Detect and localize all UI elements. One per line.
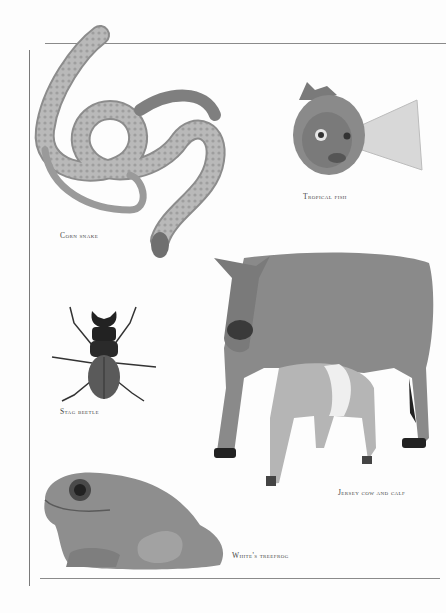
corn-snake-photo (30, 30, 230, 262)
tropical-fish-photo (287, 80, 427, 185)
caption-whites-treefrog: White's treefrog (232, 551, 289, 560)
jersey-cow-and-calf-photo (204, 248, 440, 493)
caption-tropical-fish: Tropical fish (303, 192, 347, 201)
bottom-rule (40, 578, 440, 579)
caption-stag-beetle: Stag beetle (60, 407, 99, 416)
whites-treefrog-photo (40, 465, 230, 573)
book-page: Corn snake Tropical fish (0, 0, 446, 613)
stag-beetle-photo (52, 305, 157, 405)
caption-corn-snake: Corn snake (60, 231, 98, 240)
caption-jersey-cow-and-calf: Jersey cow and calf (338, 488, 405, 497)
